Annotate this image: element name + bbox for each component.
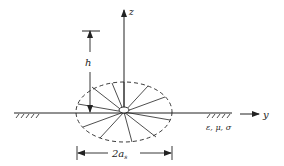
ground-hatching-right <box>207 114 230 118</box>
diameter-dimension: 2as <box>77 146 172 160</box>
ground-hatching-left <box>16 114 39 118</box>
z-axis-label: z <box>128 7 134 17</box>
y-axis-label: y <box>262 109 269 120</box>
ground-parameters-label: ε, μ, σ <box>206 123 232 132</box>
height-label: h <box>85 57 91 68</box>
diameter-label: 2as <box>111 148 127 160</box>
height-dimension: h <box>82 31 100 112</box>
ground-plane <box>14 113 232 118</box>
feed-point <box>119 107 129 113</box>
antenna-diagram: y z h 2as ε, μ, σ <box>0 0 284 166</box>
y-axis: y <box>240 109 269 120</box>
z-axis: z <box>124 7 134 110</box>
